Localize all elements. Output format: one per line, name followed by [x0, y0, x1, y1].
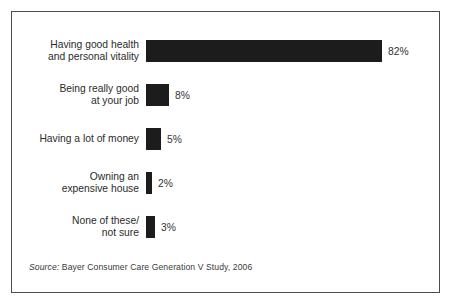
- table-row: Having a lot of money 5%: [12, 122, 439, 156]
- bar-category-label: Being really good at your job: [12, 83, 146, 108]
- source-text: Bayer Consumer Care Generation V Study, …: [62, 262, 253, 272]
- source-note: Source: Bayer Consumer Care Generation V…: [29, 262, 252, 272]
- bar-value-label: 8%: [175, 90, 190, 101]
- table-row: Owning an expensive house 2%: [12, 166, 439, 200]
- source-prefix: Source:: [29, 262, 59, 272]
- bar-segment: [146, 128, 161, 150]
- bar-track: 82%: [146, 40, 439, 62]
- bar-track: 8%: [146, 84, 439, 106]
- bar-track: 2%: [146, 172, 439, 194]
- table-row: Being really good at your job 8%: [12, 78, 439, 112]
- bar-segment: [146, 40, 382, 62]
- bar-segment: [146, 172, 152, 194]
- bar-segment: [146, 84, 169, 106]
- bar-value-label: 2%: [158, 178, 173, 189]
- bar-value-label: 5%: [167, 134, 182, 145]
- chart-frame: Having good health and personal vitality…: [11, 11, 440, 293]
- bar-category-label: Owning an expensive house: [12, 171, 146, 196]
- table-row: Having good health and personal vitality…: [12, 34, 439, 68]
- bar-category-label: Having good health and personal vitality: [12, 39, 146, 64]
- bar-value-label: 3%: [161, 222, 176, 233]
- bar-category-label: Having a lot of money: [12, 133, 146, 146]
- bar-track: 3%: [146, 216, 439, 238]
- bar-value-label: 82%: [388, 46, 409, 57]
- table-row: None of these/ not sure 3%: [12, 210, 439, 244]
- bar-category-label: None of these/ not sure: [12, 215, 146, 240]
- bar-track: 5%: [146, 128, 439, 150]
- bar-segment: [146, 216, 155, 238]
- bar-chart-plot-area: Having good health and personal vitality…: [12, 12, 439, 292]
